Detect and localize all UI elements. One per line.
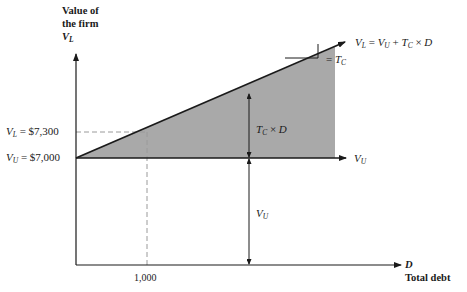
eq: = [366,36,378,48]
times: × [413,36,425,48]
x-axis-var: D [405,259,413,271]
times: × [267,123,279,135]
d: D [279,123,287,135]
y-axis-title-line2: the firm [62,18,98,30]
x-tick-label: 1,000 [134,272,157,284]
var: V [354,152,361,164]
unlevered-label: VU [256,207,268,223]
value: = $7,000 [18,151,60,163]
ts: C [341,58,346,67]
vl-equation-label: VL = VU + TC × D [355,36,432,52]
tax-shield-label: TC × D [256,123,287,139]
sub: U [263,212,268,221]
vl-value-label: VL = $7,300 [6,125,59,141]
d: D [424,36,432,48]
sub: U [361,157,366,166]
var: V [6,125,13,137]
var: V [256,207,263,219]
y-axis-title-line1: Value of [62,5,99,17]
var: V [62,31,69,42]
value: = $7,300 [17,125,59,137]
sub: L [69,35,74,44]
v1: V [355,36,362,48]
x-axis-title: Total debt [405,272,450,284]
vu-value-label: VU = $7,000 [6,151,60,167]
vu-line-label: VU [354,152,366,168]
slope-label: = TC [326,53,346,69]
plus: + [390,36,402,48]
var: V [6,151,13,163]
y-axis-title-var: VL [62,31,74,46]
eq: = [326,53,335,65]
